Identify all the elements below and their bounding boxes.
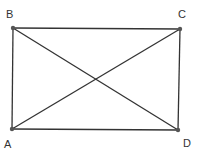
vertex-point-c (178, 27, 182, 31)
vertex-point-d (176, 128, 180, 132)
side-cd (178, 29, 180, 130)
vertex-label-d: D (183, 137, 191, 149)
side-ab (12, 28, 13, 129)
vertex-label-b: B (6, 8, 13, 20)
side-da (12, 129, 178, 130)
vertex-point-b (11, 26, 15, 30)
vertex-label-a: A (4, 138, 12, 150)
vertex-point-a (10, 127, 14, 131)
rectangle-diagram: B C A D (0, 0, 197, 153)
vertex-label-c: C (178, 8, 186, 20)
side-bc (13, 28, 180, 29)
diagonal-bd (13, 28, 178, 130)
